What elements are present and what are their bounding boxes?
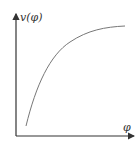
curve-v-phi — [26, 26, 125, 126]
y-axis-label: v(φ) — [20, 12, 43, 23]
x-axis-label: φ — [123, 122, 131, 133]
